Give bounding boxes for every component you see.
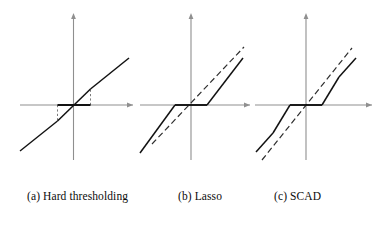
caption-hard-thresholding: (a) Hard thresholding xyxy=(27,190,128,202)
caption-row: (a) Hard thresholding (b) Lasso (c) SCAD xyxy=(0,190,384,214)
caption-lasso: (b) Lasso xyxy=(178,190,222,202)
caption-scad: (c) SCAD xyxy=(274,190,321,202)
